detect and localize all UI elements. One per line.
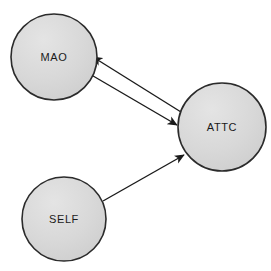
path-diagram: MAO ATTC SELF [0,0,271,271]
node-attc[interactable]: ATTC [178,83,266,171]
edge-attc-to-mao[interactable] [93,57,181,112]
edge-self-to-attc[interactable] [103,155,184,201]
node-self-label: SELF [49,213,79,225]
node-mao[interactable]: MAO [11,14,97,100]
node-attc-label: ATTC [207,121,237,133]
node-mao-label: MAO [41,51,68,63]
edge-group [88,57,184,201]
edge-mao-to-attc[interactable] [88,73,177,125]
diagram-canvas: MAO ATTC SELF [0,0,271,271]
node-self[interactable]: SELF [22,177,106,261]
